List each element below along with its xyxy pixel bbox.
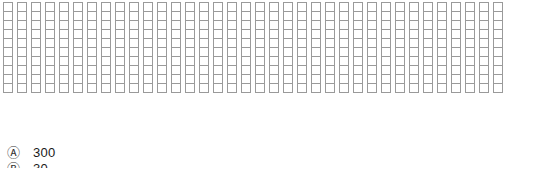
unit-block-column	[395, 2, 405, 93]
unit-block-cell	[381, 83, 391, 93]
unit-block-cell	[101, 83, 111, 93]
unit-block-cell	[255, 83, 265, 93]
unit-block-column	[31, 2, 41, 93]
unit-block-column	[157, 2, 167, 93]
unit-block-column	[451, 2, 461, 93]
unit-block-cell	[129, 83, 139, 93]
unit-block-cell	[395, 83, 405, 93]
unit-block-column	[241, 2, 251, 93]
unit-block-column	[423, 2, 433, 93]
unit-block-cell	[199, 83, 209, 93]
unit-block-cell	[59, 83, 69, 93]
block-diagram-canvas: Ⓐ 300 Ⓑ 30	[0, 0, 544, 168]
unit-block-cell	[479, 83, 489, 93]
unit-block-cell	[325, 83, 335, 93]
unit-block-column	[465, 2, 475, 93]
unit-block-column	[59, 2, 69, 93]
unit-block-column	[325, 2, 335, 93]
unit-block-cell	[241, 83, 251, 93]
unit-block-cell	[115, 83, 125, 93]
unit-block-column	[185, 2, 195, 93]
unit-block-cell	[367, 83, 377, 93]
unit-block-cell	[493, 83, 503, 93]
unit-block-column	[493, 2, 503, 93]
unit-block-column	[283, 2, 293, 93]
unit-block-column	[269, 2, 279, 93]
unit-block-column	[255, 2, 265, 93]
unit-block-cell	[269, 83, 279, 93]
unit-block-column	[367, 2, 377, 93]
unit-block-column	[129, 2, 139, 93]
unit-block-cell	[17, 83, 27, 93]
unit-block-cell	[339, 83, 349, 93]
legend: Ⓐ 300 Ⓑ 30	[6, 144, 56, 168]
unit-block-column	[115, 2, 125, 93]
circled-letter-b-icon: Ⓑ	[6, 161, 20, 168]
unit-block-cell	[213, 83, 223, 93]
unit-block-column	[73, 2, 83, 93]
unit-block-column	[339, 2, 349, 93]
circled-letter-a-icon: Ⓐ	[6, 145, 20, 159]
unit-block-grid	[3, 2, 507, 93]
unit-block-cell	[73, 83, 83, 93]
unit-block-column	[143, 2, 153, 93]
legend-row: Ⓑ 30	[6, 160, 56, 168]
legend-row: Ⓐ 300	[6, 144, 56, 160]
unit-block-cell	[3, 83, 13, 93]
unit-block-column	[3, 2, 13, 93]
unit-block-column	[199, 2, 209, 93]
unit-block-cell	[171, 83, 181, 93]
unit-block-cell	[283, 83, 293, 93]
unit-block-column	[45, 2, 55, 93]
unit-block-cell	[451, 83, 461, 93]
unit-block-cell	[465, 83, 475, 93]
unit-block-column	[17, 2, 27, 93]
unit-block-column	[311, 2, 321, 93]
unit-block-cell	[31, 83, 41, 93]
unit-block-column	[213, 2, 223, 93]
unit-block-cell	[437, 83, 447, 93]
legend-value: 30	[33, 162, 48, 169]
unit-block-cell	[45, 83, 55, 93]
unit-block-cell	[143, 83, 153, 93]
unit-block-cell	[157, 83, 167, 93]
unit-block-cell	[185, 83, 195, 93]
unit-block-column	[409, 2, 419, 93]
unit-block-column	[87, 2, 97, 93]
unit-block-column	[101, 2, 111, 93]
unit-block-cell	[227, 83, 237, 93]
unit-block-column	[171, 2, 181, 93]
unit-block-column	[227, 2, 237, 93]
unit-block-cell	[409, 83, 419, 93]
unit-block-cell	[353, 83, 363, 93]
unit-block-cell	[87, 83, 97, 93]
unit-block-column	[297, 2, 307, 93]
legend-value: 300	[33, 146, 56, 159]
unit-block-cell	[311, 83, 321, 93]
unit-block-column	[353, 2, 363, 93]
unit-block-column	[381, 2, 391, 93]
unit-block-cell	[423, 83, 433, 93]
unit-block-cell	[297, 83, 307, 93]
unit-block-column	[479, 2, 489, 93]
unit-block-column	[437, 2, 447, 93]
